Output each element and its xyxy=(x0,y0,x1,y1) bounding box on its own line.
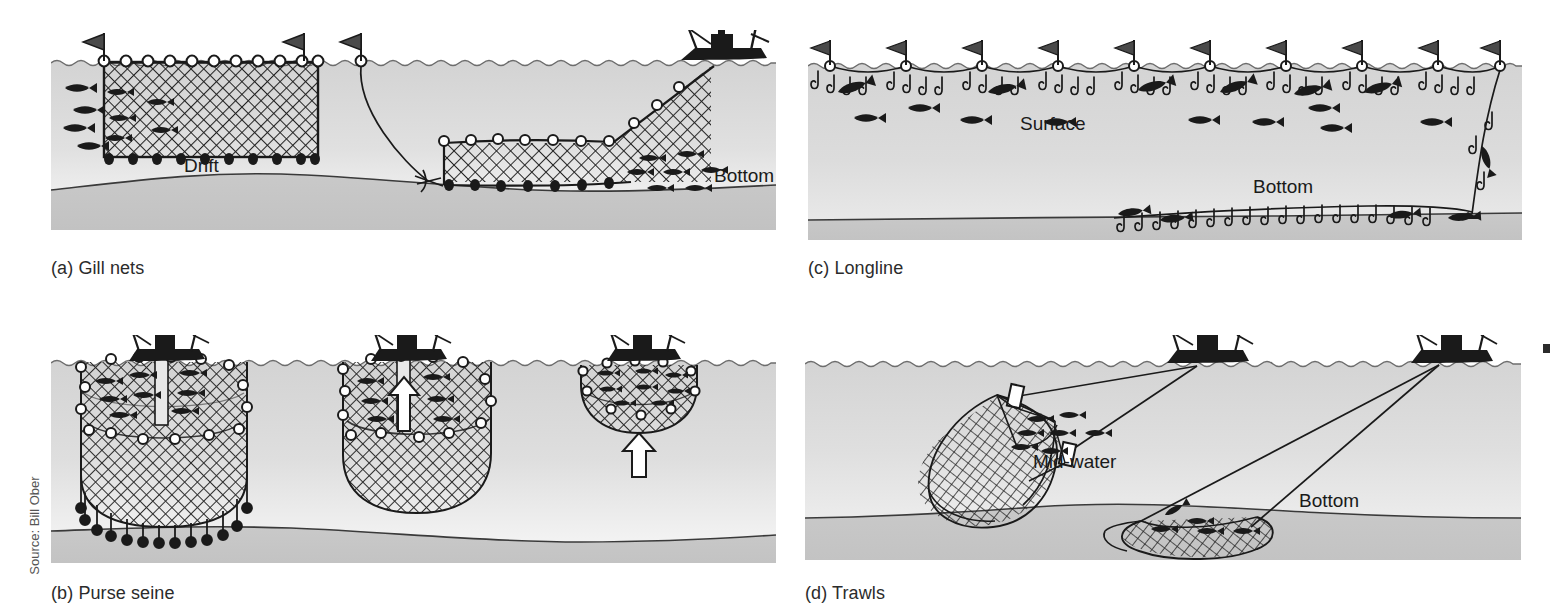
caption-purse-seine: (b) Purse seine xyxy=(51,583,175,604)
fishing-vessel xyxy=(1411,335,1497,363)
fishing-vessel xyxy=(129,335,209,361)
panel-longline: Surface xyxy=(808,30,1522,255)
caption-trawls: (d) Trawls xyxy=(805,583,885,604)
trawls-illustration: Mid-water Bottom xyxy=(805,335,1521,563)
drift-gill-net xyxy=(83,33,323,165)
panel-trawls: Mid-water Bottom xyxy=(805,335,1521,563)
label-bottom: Bottom xyxy=(714,165,774,186)
source-credit-wrap: Source: Bill Ober xyxy=(22,450,46,600)
fishing-vessel xyxy=(1167,335,1253,363)
source-credit: Source: Bill Ober xyxy=(27,451,42,601)
panel-gill-nets: Drift xyxy=(51,30,776,255)
gill-nets-illustration: Drift xyxy=(51,30,776,255)
label-bottom: Bottom xyxy=(1253,176,1313,197)
fishing-vessel xyxy=(607,335,685,361)
caption-longline: (c) Longline xyxy=(808,258,903,279)
label-bottom: Bottom xyxy=(1299,490,1359,511)
caption-gill-nets: (a) Gill nets xyxy=(51,258,144,279)
registration-mark xyxy=(1543,344,1550,353)
longline-illustration: Surface xyxy=(808,30,1522,255)
label-surface: Surface xyxy=(1020,113,1085,134)
label-midwater: Mid-water xyxy=(1033,451,1117,472)
fishing-vessel xyxy=(681,30,769,60)
purse-seine-illustration xyxy=(51,335,776,563)
figure-root: Drift xyxy=(0,0,1554,612)
panel-purse-seine xyxy=(51,335,776,563)
fishing-vessel xyxy=(371,335,451,361)
label-drift: Drift xyxy=(184,155,220,176)
